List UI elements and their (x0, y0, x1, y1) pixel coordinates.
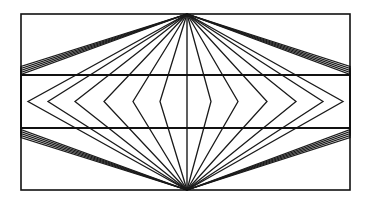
illusion-canvas (0, 0, 370, 204)
canvas-background (0, 0, 370, 204)
illusion-figure-container (0, 0, 370, 204)
